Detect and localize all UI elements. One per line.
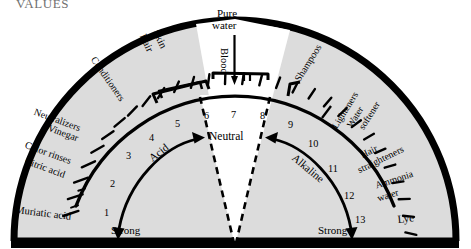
label-strong-right: Strong [318,225,347,237]
label-blood: Blood [219,48,230,74]
ph-scale-diagram: VALUES [0,0,471,249]
scale-number-6: 6 [204,110,209,121]
label-strong-left: Strong [111,225,140,237]
scale-number-3: 3 [126,150,131,161]
scale-number-9: 9 [288,119,293,130]
label-pure-water-line2: water [212,20,236,32]
scale-number-5: 5 [175,118,180,129]
scale-number-2: 2 [110,178,115,189]
scale-number-1: 1 [104,207,109,218]
label-lye: Lye [397,212,415,225]
scale-number-13: 13 [355,214,365,225]
scale-number-11: 11 [328,163,338,174]
scale-number-7: 7 [231,109,236,120]
label-pure-water-line1: Pure [217,8,237,20]
scale-number-12: 12 [344,190,354,201]
label-neutral: Neutral [209,130,243,142]
scale-number-8: 8 [260,110,265,121]
scale-number-4: 4 [149,132,154,143]
scale-number-10: 10 [308,138,318,149]
